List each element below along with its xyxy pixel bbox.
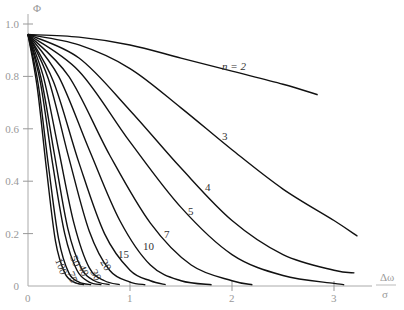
y-tick-label: 0 — [14, 280, 20, 292]
curve-label: 3 — [222, 130, 228, 142]
y-tick-label: 0.4 — [5, 175, 19, 187]
curve-label: 10 — [143, 240, 155, 252]
curve-label: 7 — [164, 228, 170, 240]
curve-n-7 — [28, 34, 252, 284]
x-tick-label: 2 — [229, 292, 235, 304]
y-tick-label: 1.0 — [5, 18, 19, 30]
curve-n-5 — [28, 34, 344, 284]
curve-label: 4 — [205, 181, 211, 193]
y-tick-label: 0.8 — [5, 70, 19, 82]
curves — [28, 34, 357, 284]
chart: 012300.20.40.60.81.0 n = 234571015203040… — [0, 0, 404, 310]
x-tick-label: 0 — [25, 292, 31, 304]
x-tick-label: 1 — [127, 292, 133, 304]
curve-label: n = 2 — [222, 60, 246, 72]
curve-label: 15 — [118, 248, 130, 260]
y-tick-label: 0.6 — [5, 123, 19, 135]
x-axis-label-numerator: Δω — [380, 271, 394, 283]
curve-n-4 — [28, 34, 354, 272]
curve-label: 5 — [188, 205, 194, 217]
x-axis-label-denominator: σ — [382, 288, 388, 300]
x-tick-label: 3 — [331, 292, 337, 304]
y-tick-label: 0.2 — [5, 228, 19, 240]
curve-n-30 — [28, 34, 120, 284]
y-axis-label: Φ — [33, 2, 41, 14]
